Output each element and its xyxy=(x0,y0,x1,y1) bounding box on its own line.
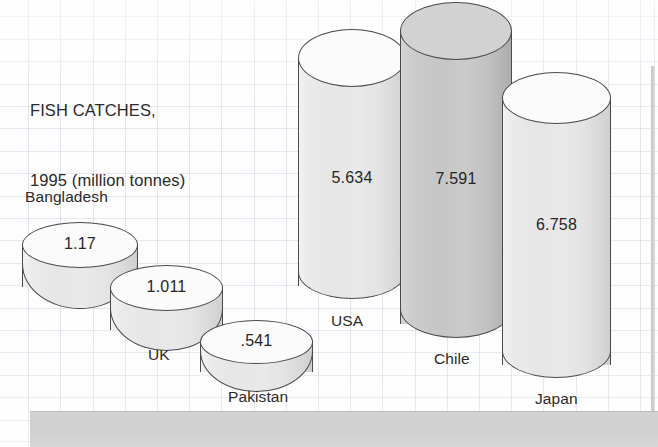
chart-title: FISH CATCHES, 1995 (million tonnes) xyxy=(30,52,185,239)
bar-chile-value: 7.591 xyxy=(400,170,512,188)
bar-label-bangladesh: Bangladesh xyxy=(25,188,108,206)
bar-japan-bottom xyxy=(502,351,611,378)
bar-chile-top xyxy=(400,2,512,60)
bar-usa-top xyxy=(298,29,406,87)
bar-japan-top xyxy=(502,72,611,124)
bar-usa[interactable]: 5.634 xyxy=(298,29,406,299)
chart-title-line-1: FISH CATCHES, xyxy=(30,99,185,122)
bar-bangladesh-value: 1.17 xyxy=(22,235,138,253)
bar-japan[interactable]: 6.758 xyxy=(502,72,611,378)
bar-chile-bottom xyxy=(400,309,512,338)
right-margin-rule xyxy=(651,66,655,434)
bar-usa-value: 5.634 xyxy=(298,169,406,187)
bar-uk-value: 1.011 xyxy=(110,278,223,296)
bar-label-japan: Japan xyxy=(535,390,578,408)
bar-label-uk: UK xyxy=(148,346,170,364)
bar-label-pakistan: Pakistan xyxy=(228,388,288,406)
bar-pakistan[interactable]: .541 xyxy=(200,320,313,392)
bar-usa-bottom xyxy=(298,272,406,299)
bar-label-chile: Chile xyxy=(434,350,470,368)
chart-canvas: FISH CATCHES, 1995 (million tonnes) 1.17… xyxy=(0,0,658,447)
bar-japan-value: 6.758 xyxy=(502,216,611,234)
bottom-band xyxy=(30,411,658,447)
bar-pakistan-value: .541 xyxy=(200,332,313,350)
bar-label-usa: USA xyxy=(331,312,363,330)
bar-chile[interactable]: 7.591 xyxy=(400,2,512,338)
